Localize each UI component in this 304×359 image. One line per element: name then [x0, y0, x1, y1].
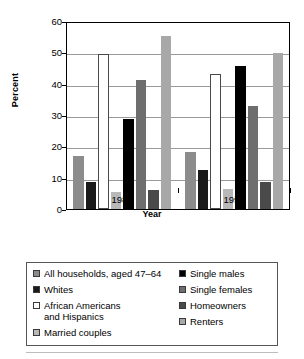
bar: [73, 156, 84, 209]
legend-item[interactable]: Married couples: [33, 327, 179, 338]
chart-container: Percent 6050403020100 19891998 Year All …: [0, 0, 304, 359]
bar: [98, 54, 109, 209]
y-axis-tick-label: 50: [36, 49, 62, 57]
bar: [161, 36, 172, 209]
legend-swatch-icon: [179, 318, 186, 325]
legend-column-left: All households, aged 47–64WhitesAfrican …: [33, 268, 179, 343]
legend-item[interactable]: African Americans and Hispanics: [33, 300, 179, 322]
legend-item-label: Renters: [190, 316, 223, 327]
legend-item[interactable]: Single males: [179, 268, 275, 279]
legend-item-label: Single females: [190, 284, 252, 295]
legend-swatch-icon: [33, 286, 40, 293]
plot-area: [66, 22, 290, 210]
legend-column-right: Single malesSingle femalesHomeownersRent…: [179, 268, 275, 332]
bar-series-group: [67, 23, 289, 209]
y-axis-tick-label: 20: [36, 143, 62, 151]
legend-item-label: African Americans and Hispanics: [44, 300, 121, 322]
legend-swatch-icon: [179, 286, 186, 293]
legend-swatch-icon: [179, 270, 186, 277]
y-axis-tick-labels: 6050403020100: [34, 0, 62, 190]
legend-item-label: All households, aged 47–64: [44, 268, 161, 279]
legend-item[interactable]: All households, aged 47–64: [33, 268, 179, 279]
legend-item[interactable]: Single females: [179, 284, 275, 295]
bar: [273, 53, 284, 209]
bar: [235, 66, 246, 209]
bar: [185, 152, 196, 209]
legend-item[interactable]: Whites: [33, 284, 179, 295]
legend-swatch-icon: [179, 302, 186, 309]
chart-legend: All households, aged 47–64WhitesAfrican …: [26, 262, 278, 346]
x-axis-category-label: 1998: [204, 194, 264, 205]
y-axis-tick-label: 30: [36, 112, 62, 120]
legend-item-label: Single males: [190, 268, 244, 279]
x-axis-tickmark: [290, 188, 291, 193]
x-axis-category-label: 1989: [92, 194, 152, 205]
y-axis-title: Percent: [10, 55, 20, 125]
legend-item[interactable]: Renters: [179, 316, 275, 327]
legend-item[interactable]: Homeowners: [179, 300, 275, 311]
legend-item-label: Homeowners: [190, 300, 246, 311]
bar: [136, 80, 147, 209]
y-axis-tick-label: 10: [36, 175, 62, 183]
y-axis-tick-label: 40: [36, 81, 62, 89]
legend-swatch-icon: [33, 270, 40, 277]
legend-item-label: Married couples: [44, 327, 112, 338]
x-axis-title: Year: [0, 209, 304, 219]
bottom-divider: [26, 352, 278, 353]
legend-item-label: Whites: [44, 284, 73, 295]
y-axis-tick-label: 60: [36, 18, 62, 26]
bar: [210, 74, 221, 209]
legend-swatch-icon: [33, 302, 40, 309]
x-axis-tickmark: [178, 188, 179, 193]
x-axis-tickmark: [66, 188, 67, 193]
legend-swatch-icon: [33, 329, 40, 336]
plot-area-wrapper: Percent 6050403020100 19891998 Year: [0, 0, 304, 218]
